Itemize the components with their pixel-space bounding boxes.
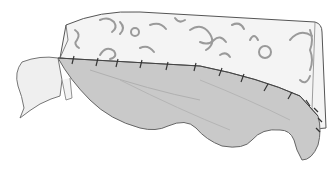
cushion-drawing <box>0 0 336 175</box>
sewing-illustration: Line drawing of a patterned fabric-cover… <box>0 0 336 175</box>
